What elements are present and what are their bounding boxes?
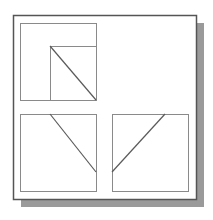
projection-drawing	[0, 0, 213, 220]
drawing-frame	[14, 16, 197, 200]
drawing-sheet	[0, 0, 213, 220]
